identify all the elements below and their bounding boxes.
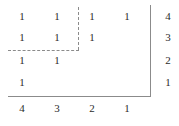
- col-label-0: 4: [15, 103, 29, 114]
- right-vertical-axis: [150, 5, 151, 97]
- cell-r0-c1: 1: [50, 11, 64, 22]
- col-label-2: 2: [85, 103, 99, 114]
- row-label-3: 1: [161, 77, 175, 88]
- cell-r0-c0: 1: [15, 11, 29, 22]
- dashed-horizontal-boundary: [8, 50, 79, 51]
- cell-r2-c1: 1: [50, 55, 64, 66]
- cell-r2-c0: 1: [15, 55, 29, 66]
- cell-r1-c0: 1: [15, 32, 29, 43]
- col-label-1: 3: [50, 103, 64, 114]
- cell-r0-c2: 1: [85, 11, 99, 22]
- row-label-0: 4: [161, 11, 175, 22]
- dashed-vertical-boundary: [78, 7, 79, 50]
- col-label-3: 1: [120, 103, 134, 114]
- cell-r3-c0: 1: [15, 77, 29, 88]
- young-diagram-figure: 1 1 1 1 1 1 1 1 1 1 4 3 2 1 4 3 2 1: [0, 0, 179, 126]
- cell-r1-c2: 1: [85, 32, 99, 43]
- bottom-horizontal-axis: [8, 96, 151, 97]
- row-label-2: 2: [161, 55, 175, 66]
- row-label-1: 3: [161, 32, 175, 43]
- cell-r1-c1: 1: [50, 32, 64, 43]
- cell-r0-c3: 1: [120, 11, 134, 22]
